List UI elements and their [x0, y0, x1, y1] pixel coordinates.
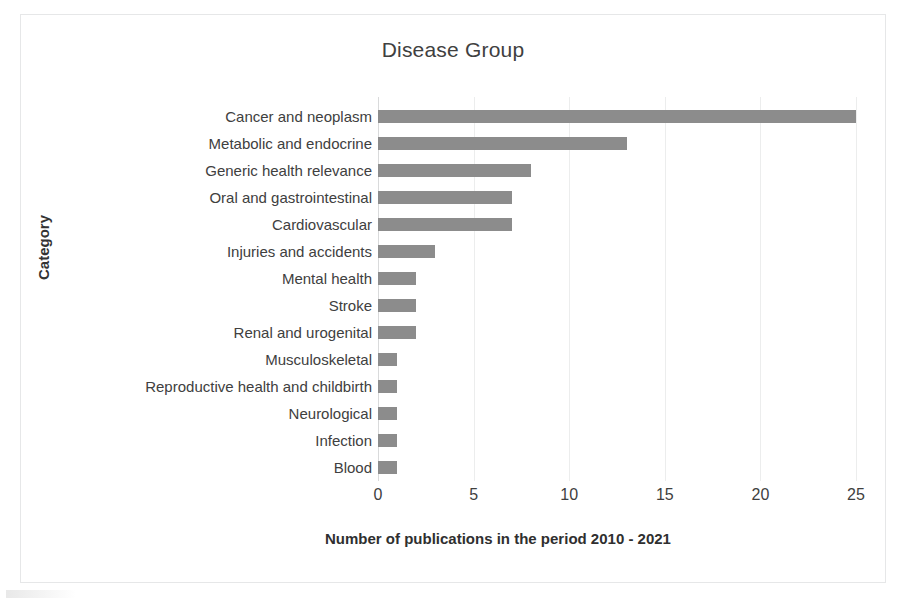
bar	[378, 272, 416, 285]
gridline-25	[856, 97, 857, 481]
bar	[378, 407, 397, 420]
x-axis-title-text: Number of publications in the period 201…	[325, 530, 671, 547]
category-label: Mental health	[46, 270, 372, 288]
bar-series	[378, 97, 856, 481]
category-label: Stroke	[46, 297, 372, 315]
bar	[378, 245, 435, 258]
x-axis-tick-labels: 0510152025	[378, 486, 856, 508]
category-label: Oral and gastrointestinal	[46, 189, 372, 207]
x-tick-label: 25	[836, 486, 876, 504]
bar	[378, 164, 531, 177]
category-label: Blood	[46, 459, 372, 477]
bar	[378, 191, 512, 204]
chart-title-text: Disease Group	[382, 38, 525, 62]
x-tick-label: 0	[358, 486, 398, 504]
category-label: Infection	[46, 432, 372, 450]
bar	[378, 461, 397, 474]
category-label: Metabolic and endocrine	[46, 135, 372, 153]
scan-artifact	[6, 590, 76, 598]
category-label: Neurological	[46, 405, 372, 423]
x-tick-label: 15	[645, 486, 685, 504]
bar	[378, 299, 416, 312]
chart-title: Disease Group	[0, 38, 906, 62]
category-label: Renal and urogenital	[46, 324, 372, 342]
bar	[378, 353, 397, 366]
bar	[378, 218, 512, 231]
bar	[378, 137, 627, 150]
x-tick-label: 5	[454, 486, 494, 504]
category-label: Generic health relevance	[46, 162, 372, 180]
category-label: Cardiovascular	[46, 216, 372, 234]
bar	[378, 110, 856, 123]
bar	[378, 326, 416, 339]
plot-area	[378, 97, 856, 481]
category-label: Cancer and neoplasm	[46, 108, 372, 126]
category-label: Injuries and accidents	[46, 243, 372, 261]
bar	[378, 380, 397, 393]
x-axis-title: Number of publications in the period 201…	[0, 530, 906, 547]
figure-page: Disease Group Category Cancer and neopla…	[0, 0, 906, 606]
x-tick-label: 10	[549, 486, 589, 504]
bar	[378, 434, 397, 447]
category-label: Musculoskeletal	[46, 351, 372, 369]
category-label: Reproductive health and childbirth	[46, 378, 372, 396]
category-axis-labels: Cancer and neoplasmMetabolic and endocri…	[46, 97, 372, 481]
x-tick-label: 20	[740, 486, 780, 504]
